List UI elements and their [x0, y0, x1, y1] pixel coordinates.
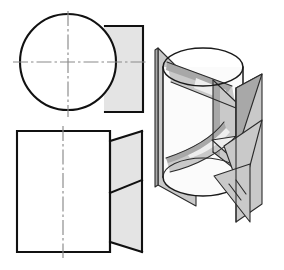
drawing-canvas: [0, 0, 284, 270]
front-view: [17, 126, 142, 258]
top-view: [13, 11, 146, 117]
technical-drawing-figure: [0, 0, 284, 270]
pictorial-view: [155, 48, 262, 222]
